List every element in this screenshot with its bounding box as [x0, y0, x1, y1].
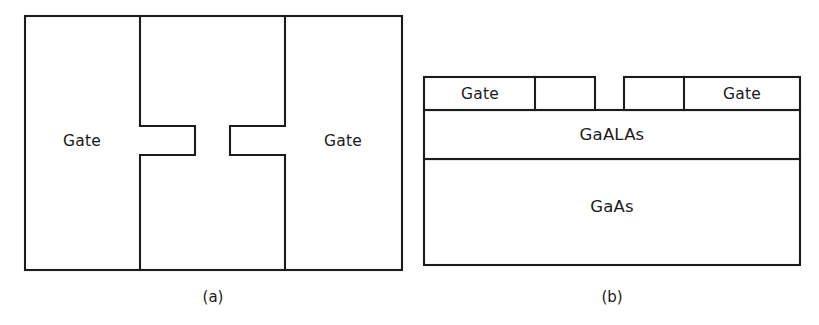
panel-b-right-gate-run [624, 77, 800, 110]
panel-b-left-gate-run [424, 77, 595, 110]
panel-a-left-gate-label: Gate [63, 132, 101, 150]
panel-a: Gate Gate (a) [25, 16, 402, 306]
panel-b-right-gate-label: Gate [723, 85, 761, 103]
panel-b-caption: (b) [601, 288, 622, 306]
split-gate-device-figure: Gate Gate (a) Gate Gate GaALAs GaAs (b) [0, 0, 819, 325]
panel-a-caption: (a) [203, 288, 224, 306]
panel-b-gaas-label: GaAs [590, 197, 634, 216]
panel-b: Gate Gate GaALAs GaAs (b) [424, 77, 800, 306]
panel-b-left-gate-label: Gate [461, 85, 499, 103]
panel-b-gaalas-label: GaALAs [580, 125, 645, 144]
figure-root: Gate Gate (a) Gate Gate GaALAs GaAs (b) [0, 0, 819, 325]
panel-a-right-gate-label: Gate [324, 132, 362, 150]
